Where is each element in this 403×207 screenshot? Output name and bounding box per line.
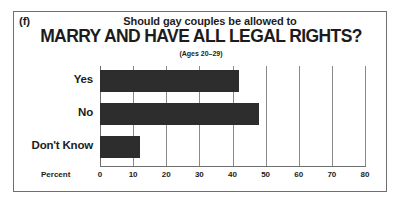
category-label: No <box>0 106 93 118</box>
gridline-60 <box>299 66 300 166</box>
category-label: Don't Know <box>0 139 93 151</box>
bar-yes <box>100 70 239 92</box>
x-tick-label: 0 <box>85 170 115 179</box>
x-axis-label: Percent <box>41 170 70 179</box>
x-tick-label: 40 <box>218 170 248 179</box>
x-tick-label: 20 <box>151 170 181 179</box>
bar-no <box>100 103 259 125</box>
chart-annotation: (Ages 20–29) <box>15 50 387 57</box>
x-tick-label: 30 <box>184 170 214 179</box>
category-label: Yes <box>0 73 93 85</box>
x-tick-label: 60 <box>284 170 314 179</box>
x-axis-line <box>100 166 366 167</box>
x-tick-label: 10 <box>118 170 148 179</box>
x-tick-label: 70 <box>317 170 347 179</box>
chart-title: MARRY AND HAVE ALL LEGAL RIGHTS? <box>15 26 387 47</box>
plot-area <box>100 66 365 166</box>
gridline-80 <box>365 66 366 166</box>
figure-panel: (f) Should gay couples be allowed to MAR… <box>0 0 403 207</box>
x-tick-label: 50 <box>251 170 281 179</box>
x-tick-label: 80 <box>350 170 380 179</box>
gridline-70 <box>332 66 333 166</box>
bar-don-t-know <box>100 136 140 158</box>
gridline-50 <box>266 66 267 166</box>
